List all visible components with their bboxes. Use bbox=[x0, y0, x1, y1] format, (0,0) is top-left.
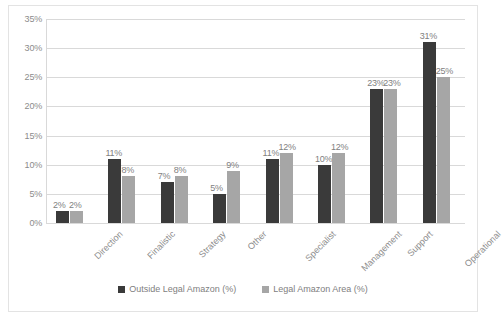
legend-item[interactable]: Legal Amazon Area (%) bbox=[262, 284, 368, 294]
bar[interactable] bbox=[56, 211, 69, 223]
legend-swatch-icon bbox=[118, 286, 125, 293]
bar-group: 11%12% bbox=[256, 19, 308, 223]
bar[interactable] bbox=[161, 182, 174, 223]
plot-wrapper: 0%5%10%15%20%25%30%35% 2%2%11%8%7%8%5%9%… bbox=[9, 6, 477, 311]
x-tick-label: Support bbox=[406, 229, 435, 258]
bar[interactable] bbox=[280, 153, 293, 223]
legend-label: Legal Amazon Area (%) bbox=[273, 284, 368, 294]
y-tick-label: 35% bbox=[25, 14, 42, 24]
legend-label: Outside Legal Amazon (%) bbox=[129, 284, 236, 294]
bar-value-label: 25% bbox=[436, 66, 453, 76]
bar-value-label: 31% bbox=[420, 31, 437, 41]
bars-layer: 2%2%11%8%7%8%5%9%11%12%10%12%23%23%31%25… bbox=[46, 19, 465, 223]
bar-group: 2%2% bbox=[46, 19, 98, 223]
bar[interactable] bbox=[70, 211, 83, 223]
y-tick-label: 25% bbox=[25, 72, 42, 82]
x-tick-label: Strategy bbox=[197, 229, 228, 260]
bar[interactable] bbox=[122, 176, 135, 223]
bar[interactable] bbox=[384, 89, 397, 223]
bar[interactable] bbox=[108, 159, 121, 223]
bar-value-label: 8% bbox=[121, 165, 134, 175]
bar-value-label: 11% bbox=[105, 148, 122, 158]
bar-group: 7%8% bbox=[151, 19, 203, 223]
bar-group: 10%12% bbox=[308, 19, 360, 223]
bar[interactable] bbox=[423, 42, 436, 223]
legend-item[interactable]: Outside Legal Amazon (%) bbox=[118, 284, 236, 294]
y-tick-label: 30% bbox=[25, 43, 42, 53]
bar-value-label: 2% bbox=[53, 200, 66, 210]
bar-group: 31%25% bbox=[413, 19, 465, 223]
x-tick-label: Management bbox=[359, 229, 403, 273]
chart-legend: Outside Legal Amazon (%)Legal Amazon Are… bbox=[9, 284, 477, 294]
y-tick-label: 15% bbox=[25, 131, 42, 141]
x-tick-label: Other bbox=[246, 229, 269, 252]
bar-value-label: 23% bbox=[367, 78, 384, 88]
bar-value-label: 7% bbox=[158, 171, 171, 181]
bar-value-label: 5% bbox=[210, 183, 223, 193]
x-axis-tick-labels: DirectionFinalisticStrategyOtherSpeciali… bbox=[46, 223, 465, 283]
legend-swatch-icon bbox=[262, 286, 269, 293]
bar-value-label: 9% bbox=[226, 160, 239, 170]
bar-value-label: 8% bbox=[174, 165, 187, 175]
bar-value-label: 10% bbox=[315, 154, 332, 164]
bar[interactable] bbox=[266, 159, 279, 223]
bar[interactable] bbox=[332, 153, 345, 223]
bar[interactable] bbox=[437, 77, 450, 223]
bar-value-label: 11% bbox=[263, 148, 280, 158]
y-tick-label: 0% bbox=[29, 218, 42, 228]
bar-value-label: 23% bbox=[383, 78, 400, 88]
x-tick-label: Direction bbox=[93, 229, 125, 261]
y-tick-label: 20% bbox=[25, 101, 42, 111]
y-tick-label: 10% bbox=[25, 160, 42, 170]
bar-value-label: 2% bbox=[69, 200, 82, 210]
bar-group: 5%9% bbox=[203, 19, 255, 223]
x-tick-label: Specialist bbox=[303, 229, 337, 263]
bar[interactable] bbox=[370, 89, 383, 223]
bar-value-label: 12% bbox=[331, 142, 348, 152]
bar[interactable] bbox=[318, 165, 331, 223]
bar-value-label: 12% bbox=[279, 142, 296, 152]
plot-area: 0%5%10%15%20%25%30%35% 2%2%11%8%7%8%5%9%… bbox=[46, 19, 465, 223]
y-tick-label: 5% bbox=[29, 189, 42, 199]
x-tick-label: Operational bbox=[462, 229, 502, 269]
bar-group: 11%8% bbox=[98, 19, 150, 223]
bar[interactable] bbox=[213, 194, 226, 223]
bar[interactable] bbox=[227, 171, 240, 223]
chart-container: 0%5%10%15%20%25%30%35% 2%2%11%8%7%8%5%9%… bbox=[8, 5, 478, 312]
bar-group: 23%23% bbox=[360, 19, 412, 223]
x-tick-label: Finalistic bbox=[145, 229, 177, 261]
bar[interactable] bbox=[175, 176, 188, 223]
